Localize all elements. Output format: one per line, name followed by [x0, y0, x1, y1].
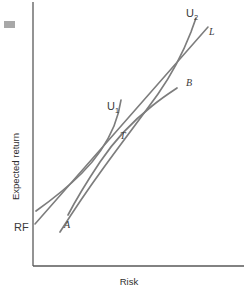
- label-rf: RF: [14, 221, 29, 233]
- label-u1-base: U: [107, 100, 115, 112]
- label-u1-subscript: 1: [115, 106, 119, 115]
- diagram-canvas: RF A B T L U1 U2 Expected return Risk: [0, 0, 249, 289]
- label-u2: U2: [186, 7, 198, 22]
- y-axis-title: Expected return: [10, 133, 21, 200]
- label-a: A: [63, 219, 71, 230]
- label-u1: U1: [107, 100, 119, 115]
- corner-mark: [4, 21, 15, 28]
- label-t: T: [120, 130, 127, 141]
- indifference-curve-u2: [60, 18, 196, 232]
- label-b: B: [186, 77, 192, 88]
- indifference-curve-u1: [36, 100, 121, 211]
- label-u2-base: U: [186, 7, 194, 19]
- capital-market-line: [35, 27, 208, 224]
- x-axis-title: Risk: [120, 276, 139, 287]
- figure-container: RF A B T L U1 U2 Expected return Risk: [0, 0, 249, 289]
- label-l: L: [208, 26, 215, 37]
- label-u2-subscript: 2: [194, 13, 198, 22]
